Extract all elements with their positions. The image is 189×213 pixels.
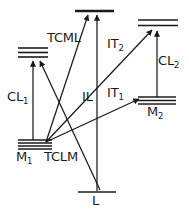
transition-it2 — [46, 30, 152, 142]
label-it1: IT1 — [107, 86, 124, 99]
label-it1-base: IT — [107, 85, 118, 100]
label-m2-sub: 2 — [158, 111, 163, 121]
label-it2-base: IT — [107, 36, 118, 51]
label-it1-sub: 1 — [118, 92, 123, 102]
label-tcml: TCML — [47, 31, 81, 44]
level-m2 — [138, 97, 176, 104]
label-m1-sub: 1 — [27, 156, 32, 166]
label-il-base: IL — [82, 89, 93, 104]
label-cl1-sub: 1 — [23, 96, 28, 106]
label-cl1: CL1 — [7, 90, 28, 103]
energy-level-diagram: TCML TCLM CL1 CL2 IL IT1 IT2 M1 M2 L — [0, 0, 189, 213]
label-m2-base: M — [147, 104, 158, 119]
label-m1: M1 — [16, 150, 32, 163]
label-it2-sub: 2 — [118, 43, 123, 53]
level-upper-right — [138, 20, 178, 26]
label-cl2: CL2 — [158, 54, 179, 67]
label-m2: M2 — [147, 105, 163, 118]
label-cl2-base: CL — [158, 53, 174, 68]
label-il: IL — [82, 90, 93, 103]
level-tcml — [18, 48, 48, 57]
label-l-base: L — [92, 193, 99, 208]
label-cl2-sub: 2 — [174, 60, 179, 70]
transition-tcml-feed — [40, 61, 100, 190]
label-l: L — [92, 194, 99, 207]
label-tclm: TCLM — [44, 150, 78, 163]
label-cl1-base: CL — [7, 89, 23, 104]
label-m1-base: M — [16, 149, 27, 164]
transition-it1 — [46, 99, 139, 142]
label-it2: IT2 — [107, 37, 124, 50]
